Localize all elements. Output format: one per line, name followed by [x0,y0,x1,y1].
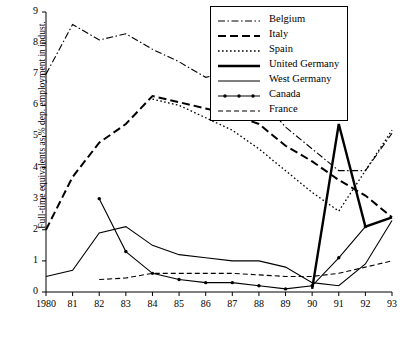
legend-label: Italy [269,28,288,39]
legend-key-icon [217,73,261,85]
y-tick-label: 3 [22,192,38,203]
legend-item: West Germany [217,71,339,86]
y-tick-label: 8 [22,36,38,47]
legend-key-icon [217,103,261,115]
y-tick-label: 1 [22,254,38,265]
y-tick-label: 0 [22,285,38,296]
legend-key-icon [217,88,261,100]
legend-label: United Germany [269,58,339,69]
legend-label: Belgium [269,13,305,24]
x-tick-label: 82 [84,298,114,309]
x-tick-label: 90 [297,298,327,309]
legend-key-icon [217,43,261,55]
legend-label: France [269,103,298,114]
legend-item: France [217,101,339,116]
x-tick-label: 85 [164,298,194,309]
x-tick-label: 87 [217,298,247,309]
y-tick-label: 5 [22,129,38,140]
legend-key-icon [217,13,261,25]
x-tick-label: 1980 [31,298,61,309]
x-tick-label: 88 [244,298,274,309]
x-tick-label: 84 [137,298,167,309]
legend-label: West Germany [269,73,331,84]
legend-item: Spain [217,41,339,56]
y-tick-label: 4 [22,161,38,172]
y-tick-label: 6 [22,98,38,109]
legend-label: Canada [269,88,301,99]
legend-item: Italy [217,26,339,41]
x-tick-label: 89 [271,298,301,309]
legend-label: Spain [269,43,293,54]
legend-item: Canada [217,86,339,101]
legend-key-icon [217,28,261,40]
legend-item: United Germany [217,56,339,71]
y-tick-label: 2 [22,223,38,234]
y-tick-label: 9 [22,5,38,16]
x-tick-label: 81 [58,298,88,309]
y-tick-label: 7 [22,67,38,78]
legend-item: Belgium [217,11,339,26]
x-tick-label: 91 [324,298,354,309]
chart-root: Full-time equivalents as % dep. employme… [0,0,406,337]
x-tick-label: 83 [111,298,141,309]
x-tick-label: 92 [350,298,380,309]
x-tick-label: 86 [191,298,221,309]
chart-legend: BelgiumItalySpainUnited GermanyWest Germ… [210,6,348,121]
legend-key-icon [217,58,261,70]
x-tick-label: 93 [377,298,406,309]
